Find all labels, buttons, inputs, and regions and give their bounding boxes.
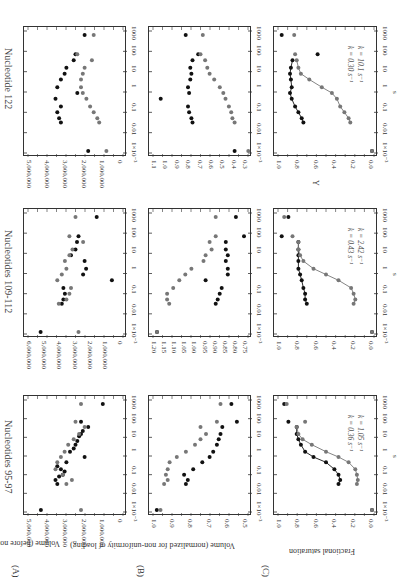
x-tick-label: 0.1 xyxy=(130,285,138,294)
row-label: (A) xyxy=(11,565,21,578)
y-tick-label: 1.10 xyxy=(170,341,178,353)
plot-frame xyxy=(148,208,251,337)
x-tick-label: 1000 xyxy=(381,26,389,40)
x-tick-label: 1 xyxy=(130,448,138,452)
y-axis-title-b: Volume (normalized for non-uniformity of… xyxy=(70,541,235,550)
plot-frame xyxy=(148,26,251,156)
y-tick-label: 0.6 xyxy=(312,160,320,169)
y-tick-label: 0.4 xyxy=(330,519,338,528)
x-tick-label: 100 xyxy=(381,45,389,56)
y-tick-label: 1.0 xyxy=(275,160,283,169)
plot-frame xyxy=(23,26,126,156)
x-tick-label: 0.1 xyxy=(381,285,389,294)
x-tick-label: 100 xyxy=(255,413,263,424)
row-label: (C) xyxy=(261,565,271,577)
y-tick-label: 0.2 xyxy=(349,341,357,350)
y-tick-label: 0 xyxy=(116,341,124,345)
x-tick-label: 10 xyxy=(255,246,263,253)
y-tick-label: 0.0 xyxy=(367,160,375,169)
y-tick-label: 0.85 xyxy=(221,341,229,353)
plot-frame xyxy=(148,395,251,515)
x-tick-label: 100 xyxy=(255,227,263,238)
y-tick-label: 0.2 xyxy=(349,519,357,528)
y-tick-label: 4,000,000 xyxy=(43,160,51,188)
x-axis-label: s xyxy=(391,91,399,94)
x-tick-label: 10 xyxy=(381,65,389,72)
scatter-plot xyxy=(24,27,127,157)
x-tick-label: 10 xyxy=(381,246,389,253)
y-tick-label: 0.8 xyxy=(186,519,194,528)
x-tick-label: 1×10⁻³ xyxy=(381,501,389,521)
x-tick-label: 0.01 xyxy=(130,123,138,135)
x-tick-label: 1×10⁻³ xyxy=(130,323,138,343)
y-tick-label: 0.4 xyxy=(230,160,238,169)
rate-constant-label: k = 0.30 s⁻¹ xyxy=(346,46,355,82)
x-tick-label: 1×10⁻³ xyxy=(130,142,138,162)
x-tick-label: 0.01 xyxy=(381,304,389,316)
scatter-plot xyxy=(24,209,127,338)
x-tick-label: 100 xyxy=(255,45,263,56)
x-tick-label: 10 xyxy=(130,65,138,72)
x-tick-label: 1000 xyxy=(130,208,138,222)
y-tick-label: 1.15 xyxy=(160,341,168,353)
y-tick-label: 1.1 xyxy=(150,160,158,169)
x-tick-label: 1 xyxy=(255,266,263,270)
x-tick-label: 0.01 xyxy=(255,483,263,495)
x-tick-label: 1 xyxy=(381,84,389,88)
column-title: Nucleotides 95-97 xyxy=(3,420,14,494)
rate-constant-label: k = 0.36 s⁻¹ xyxy=(346,415,355,451)
y-tick-label: 0.6 xyxy=(223,519,231,528)
x-tick-label: 1 xyxy=(130,266,138,270)
y-tick-label: 1.05 xyxy=(180,341,188,353)
y-tick-label: 0.6 xyxy=(312,341,320,350)
y-tick-label: 0.5 xyxy=(241,519,249,528)
y-tick-label: 3,000,000 xyxy=(71,341,79,369)
y-tick-label: 0.4 xyxy=(330,160,338,169)
x-tick-label: 1×10⁻³ xyxy=(381,142,389,162)
y-tick-label: 0.8 xyxy=(293,519,301,528)
x-tick-label: 1×10⁻³ xyxy=(130,501,138,521)
y-tick-label: 1.0 xyxy=(275,341,283,350)
y-tick-label: 0.4 xyxy=(330,341,338,350)
y-tick-label: 0 xyxy=(116,160,124,164)
x-tick-label: 0.01 xyxy=(381,123,389,135)
x-tick-label: 1000 xyxy=(130,26,138,40)
scatter-plot xyxy=(274,396,378,516)
x-tick-label: 0.01 xyxy=(381,483,389,495)
x-tick-label: 10 xyxy=(255,430,263,437)
y-axis-title-y: Y xyxy=(311,180,320,186)
y-tick-label: 4,000,000 xyxy=(55,341,63,369)
x-tick-label: 1×10⁻³ xyxy=(255,501,263,521)
x-tick-label: 0.1 xyxy=(130,103,138,112)
y-tick-label: 0.8 xyxy=(184,160,192,169)
y-tick-label: 0.90 xyxy=(211,341,219,353)
x-tick-label: 1×10⁻³ xyxy=(255,142,263,162)
x-tick-label: 0.1 xyxy=(130,466,138,475)
y-tick-label: 0.7 xyxy=(205,519,213,528)
x-tick-label: 1000 xyxy=(255,208,263,222)
x-tick-label: 0.01 xyxy=(130,304,138,316)
plot-frame xyxy=(23,395,126,515)
x-tick-label: 100 xyxy=(130,413,138,424)
scatter-plot xyxy=(149,396,252,516)
y-tick-label: 0.0 xyxy=(367,519,375,528)
y-tick-label: 0.95 xyxy=(201,341,209,353)
y-tick-label: 0.7 xyxy=(196,160,204,169)
y-tick-label: 0.9 xyxy=(168,519,176,528)
y-tick-label: 0.8 xyxy=(293,341,301,350)
rate-constant-label: k = 1.05 s⁻¹ xyxy=(356,415,365,451)
x-tick-label: 0.01 xyxy=(255,123,263,135)
x-tick-label: 100 xyxy=(381,413,389,424)
x-axis-label: s xyxy=(391,455,399,458)
x-tick-label: 0.01 xyxy=(130,483,138,495)
y-tick-label: 1,000,000 xyxy=(98,160,106,188)
x-tick-label: 0.1 xyxy=(381,466,389,475)
y-tick-label: 1.0 xyxy=(161,160,169,169)
x-tick-label: 10 xyxy=(381,430,389,437)
x-tick-label: 100 xyxy=(130,45,138,56)
rate-constant-label: k = 2.42 s⁻¹ xyxy=(356,228,365,264)
column-title: Nucleotide 122 xyxy=(3,48,14,109)
y-tick-label: 6,000,000 xyxy=(25,341,33,369)
y-axis-title-a: Volume (before normalization) xyxy=(0,539,60,548)
x-tick-label: 1×10⁻³ xyxy=(255,323,263,343)
